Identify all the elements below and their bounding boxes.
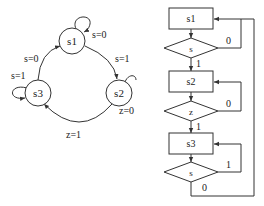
transition-s2-s3 (44, 104, 112, 122)
branch-label-3-next: 0 (202, 182, 207, 193)
branch-label-1-next: 1 (196, 58, 201, 69)
decision-label-2: z (189, 107, 193, 117)
flowchart (164, 8, 254, 196)
label-s2-self: z=0 (119, 105, 134, 116)
decision-label-1: s (189, 44, 193, 54)
label-s3-self: s=1 (11, 70, 26, 81)
process-label-s1: s1 (187, 13, 196, 24)
transition-s1-s2 (85, 46, 117, 79)
label-s2-s3: z=1 (66, 129, 81, 140)
state-s2: s2 (106, 80, 132, 106)
state-label: s2 (114, 87, 124, 99)
branch-label-2-loop: 0 (226, 98, 231, 109)
process-label-s3: s3 (187, 138, 196, 149)
label-s3-s1: s=0 (24, 53, 39, 64)
state-s3: s3 (25, 80, 51, 106)
state-s1: s1 (59, 28, 85, 54)
process-label-s2: s2 (187, 76, 196, 87)
label-s1-self: s=0 (92, 29, 107, 40)
transition-s3-s1 (38, 46, 60, 80)
state-label: s1 (67, 35, 77, 47)
decision-label-3: s (189, 168, 193, 178)
branch-label-3-loop: 1 (226, 159, 231, 170)
state-label: s3 (33, 87, 43, 99)
branch-label-1-loop: 0 (226, 35, 231, 46)
self-loop-s2 (125, 76, 136, 82)
branch-label-2-next: 1 (196, 121, 201, 132)
label-s1-s2: s=1 (115, 53, 130, 64)
diagram-canvas: s1 s2 s3 s=0 s=1 z=0 z=1 s=1 s=0 s1 s 0 (0, 0, 264, 206)
